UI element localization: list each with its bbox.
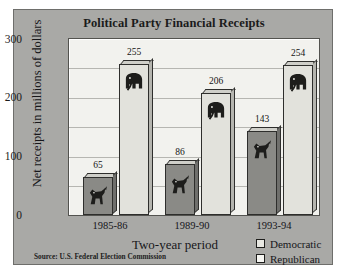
bar-value-label: 206 [209, 76, 223, 86]
bar-front-face [283, 65, 313, 215]
gridline-250 [69, 68, 319, 69]
bar-side-face [313, 59, 317, 212]
bar-side-face [231, 87, 235, 212]
y-axis-title: Net receipts in millions of dollars [30, 19, 45, 189]
bar-side-face [277, 125, 281, 213]
bar-front-face [119, 64, 149, 215]
chart-legend: Democratic Republican [256, 236, 321, 266]
bar-democratic-1985-86[interactable]: 65 [83, 177, 113, 216]
plot-area: 65 255 [68, 38, 320, 216]
bar-republican-1985-86[interactable]: 255 [119, 64, 149, 215]
bar-republican-1989-90[interactable]: 206 [201, 93, 231, 215]
bar-value-label: 65 [93, 160, 103, 170]
bar-side-face [113, 171, 117, 213]
plot-inner: 65 255 [69, 39, 319, 215]
legend-item-democratic[interactable]: Democratic [256, 236, 321, 251]
gridline-200 [69, 98, 319, 99]
bar-republican-1993-94[interactable]: 254 [283, 65, 313, 215]
bar-value-label: 254 [291, 48, 305, 58]
bar-value-label: 143 [255, 114, 269, 124]
legend-swatch-democratic [256, 239, 265, 248]
bar-side-face [149, 58, 153, 212]
bar-front-face [201, 93, 231, 215]
legend-label-republican: Republican [270, 253, 320, 265]
bar-side-face [195, 158, 199, 212]
gridline-100 [69, 157, 319, 158]
x-axis-title: Two-year period [80, 237, 270, 253]
bar-value-label: 86 [175, 147, 185, 157]
source-note: Source: U.S. Federal Election Commission [34, 252, 166, 261]
legend-swatch-republican [256, 254, 265, 263]
bar-front-face [247, 131, 277, 216]
y-tick-200: 200 [0, 92, 22, 104]
legend-label-democratic: Democratic [270, 238, 321, 250]
y-tick-0: 0 [0, 210, 22, 222]
y-tick-300: 300 [0, 34, 22, 46]
bar-front-face [83, 177, 113, 216]
chart-title: Political Party Financial Receipts [14, 16, 334, 31]
chart-figure: Political Party Financial Receipts Net r… [0, 0, 346, 274]
chart-panel: Political Party Financial Receipts Net r… [13, 9, 333, 265]
legend-item-republican[interactable]: Republican [256, 251, 321, 266]
x-tick-1989-90: 1989-90 [150, 220, 234, 231]
bar-democratic-1993-94[interactable]: 143 [247, 131, 277, 216]
x-tick-1993-94: 1993-94 [232, 220, 316, 231]
x-tick-1985-86: 1985-86 [68, 220, 152, 231]
bar-front-face [165, 164, 195, 215]
bar-value-label: 255 [127, 47, 141, 57]
bar-democratic-1989-90[interactable]: 86 [165, 164, 195, 215]
y-tick-100: 100 [0, 151, 22, 163]
